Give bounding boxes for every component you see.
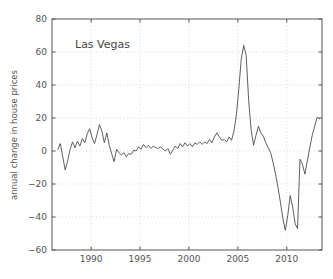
y-tick-label: −40 [28, 212, 47, 222]
chart-canvas: 19901995200020052010 −60−40−20020406080 … [0, 0, 333, 279]
chart-figure: 19901995200020052010 −60−40−20020406080 … [0, 0, 333, 279]
x-tick-label: 2010 [275, 254, 298, 264]
y-tick-label: −20 [28, 179, 47, 189]
plot-area-background [52, 19, 322, 250]
y-tick-label: −60 [28, 245, 47, 255]
y-tick-label: 0 [41, 146, 47, 156]
y-tick-label: 60 [36, 47, 48, 57]
x-tick-label: 1990 [80, 254, 103, 264]
y-tick-label: 80 [36, 14, 48, 24]
y-axis-label: annual change in house prices [9, 69, 19, 200]
x-tick-label: 2000 [178, 254, 201, 264]
y-tick-label: 40 [36, 80, 48, 90]
chart-annotation-las-vegas: Las Vegas [75, 38, 130, 51]
y-tick-label: 20 [36, 113, 48, 123]
x-tick-label: 2005 [226, 254, 249, 264]
x-tick-label: 1995 [129, 254, 152, 264]
